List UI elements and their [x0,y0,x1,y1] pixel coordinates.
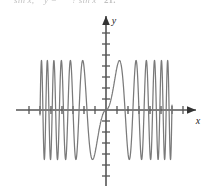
x-axis-label: x [195,115,201,126]
y-axis-arrowhead [102,16,110,25]
figure-container: sin x, y = ? sin x 21. [0,0,213,192]
y-axis-label: y [111,15,117,26]
x-axis-arrowhead [187,106,196,114]
plot-area: x y [0,0,213,192]
